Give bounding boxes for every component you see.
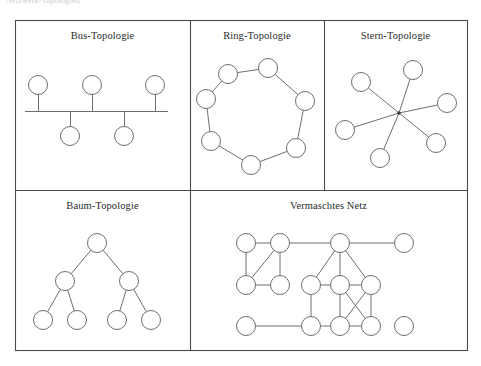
node-star-s3 bbox=[438, 94, 457, 113]
edge-ring-r4-r5 bbox=[219, 146, 243, 160]
node-bus-b1 bbox=[29, 76, 48, 95]
edge-ring-r3-r4 bbox=[260, 151, 287, 161]
edge-star-hub-s6 bbox=[384, 113, 399, 149]
node-mesh-m2 bbox=[271, 234, 290, 253]
edge-tree-t0-t1 bbox=[71, 250, 91, 273]
edge-ring-r1-r2 bbox=[275, 74, 298, 94]
edge-star-hub-s5 bbox=[399, 113, 429, 137]
node-tree-t4 bbox=[68, 311, 87, 330]
node-mesh-m4 bbox=[395, 234, 414, 253]
node-ring-r7 bbox=[219, 65, 238, 84]
node-ring-r3 bbox=[287, 139, 306, 158]
node-tree-t0 bbox=[88, 234, 107, 253]
panel-title-star: Stern-Topologie bbox=[324, 30, 467, 41]
node-star-s1 bbox=[404, 61, 423, 80]
edge-ring-r2-r3 bbox=[298, 110, 303, 138]
node-mesh-m5 bbox=[237, 276, 256, 295]
panel-title-bus: Bus-Topologie bbox=[15, 30, 190, 41]
edge-ring-r7-r1 bbox=[237, 69, 258, 72]
node-star-s6 bbox=[371, 149, 390, 168]
edge-tree-t1-t4 bbox=[68, 290, 74, 311]
node-mesh-m6 bbox=[271, 276, 290, 295]
edge-mesh-m2-m5 bbox=[252, 250, 274, 277]
edge-star-hub-s1 bbox=[399, 79, 410, 113]
edge-mesh-m3-m7 bbox=[316, 251, 334, 277]
node-mesh-m13 bbox=[362, 317, 381, 336]
node-ring-r4 bbox=[242, 156, 261, 175]
node-star-s5 bbox=[427, 134, 446, 153]
edge-tree-t1-t3 bbox=[48, 289, 61, 311]
node-mesh-m3 bbox=[331, 234, 350, 253]
node-star-hub bbox=[397, 111, 401, 115]
node-tree-t5 bbox=[108, 311, 127, 330]
node-mesh-m11 bbox=[302, 317, 321, 336]
node-ring-r1 bbox=[259, 59, 278, 78]
node-mesh-m9 bbox=[362, 276, 381, 295]
node-star-s2 bbox=[352, 73, 371, 92]
node-tree-t3 bbox=[34, 311, 53, 330]
edge-tree-t2-t5 bbox=[120, 290, 126, 311]
node-tree-t1 bbox=[56, 272, 75, 291]
node-bus-b2 bbox=[83, 76, 102, 95]
panel-title-mesh: Vermaschtes Netz bbox=[190, 200, 467, 211]
node-mesh-m12 bbox=[331, 317, 350, 336]
node-mesh-m8 bbox=[331, 276, 350, 295]
edge-mesh-m3-m9 bbox=[346, 251, 366, 278]
node-mesh-m14 bbox=[395, 317, 414, 336]
node-mesh-m1 bbox=[237, 234, 256, 253]
edge-star-hub-s3 bbox=[399, 105, 438, 113]
node-mesh-m7 bbox=[302, 276, 321, 295]
node-ring-r6 bbox=[197, 90, 216, 109]
edge-tree-t0-t2 bbox=[103, 250, 123, 273]
panel-title-tree: Baum-Topologie bbox=[15, 200, 190, 211]
diagram-page: Netzwerk-Topologien Bus-Topologie Ring-T… bbox=[0, 0, 481, 366]
node-bus-b4 bbox=[61, 127, 80, 146]
topology-figure bbox=[0, 0, 481, 366]
edge-tree-t2-t6 bbox=[134, 289, 147, 311]
node-bus-b3 bbox=[146, 76, 165, 95]
node-bus-b5 bbox=[115, 127, 134, 146]
outer-frame bbox=[16, 21, 468, 351]
edge-ring-r6-r7 bbox=[212, 81, 221, 92]
node-star-s4 bbox=[336, 121, 355, 140]
node-mesh-m10 bbox=[237, 317, 256, 336]
panel-title-ring: Ring-Topologie bbox=[190, 30, 324, 41]
frame-layer bbox=[15, 20, 468, 351]
node-tree-t6 bbox=[142, 311, 161, 330]
node-ring-r5 bbox=[202, 132, 221, 151]
edge-star-hub-s4 bbox=[354, 113, 399, 127]
node-tree-t2 bbox=[120, 272, 139, 291]
edge-star-hub-s2 bbox=[368, 88, 399, 113]
edge-ring-r5-r6 bbox=[207, 108, 210, 131]
node-ring-r2 bbox=[296, 92, 315, 111]
